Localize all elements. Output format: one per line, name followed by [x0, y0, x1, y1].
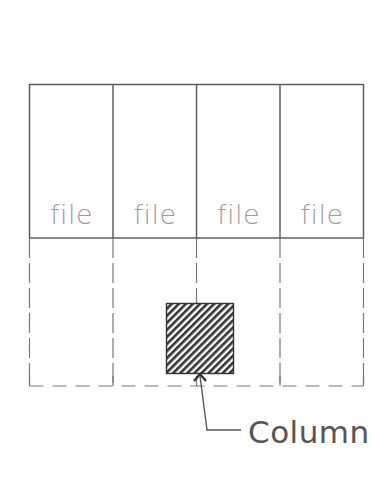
column-callout-arrow: [194, 374, 241, 430]
column-hatched-square: [167, 304, 234, 374]
file-label-3: file: [217, 199, 260, 230]
file-label-1: file: [50, 199, 93, 230]
file-label-2: file: [133, 199, 176, 230]
column-callout-label: Column: [248, 414, 370, 450]
diagram-canvas: file file file file Column: [0, 0, 386, 477]
file-label-4: file: [300, 199, 343, 230]
